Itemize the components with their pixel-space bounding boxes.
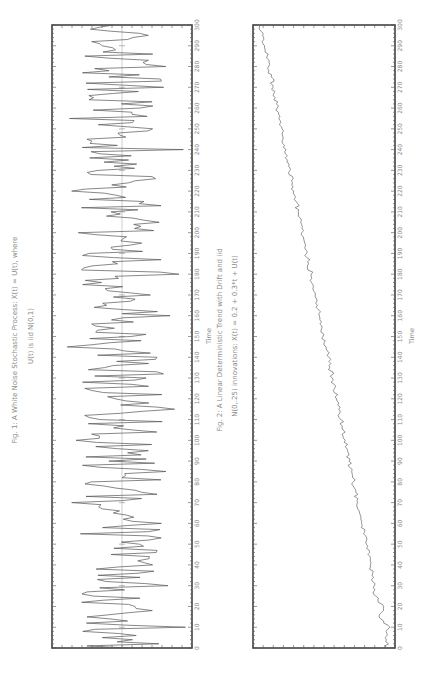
figure-1-caption-line1: Fig. 1: A White Noise Stochastic Process… xyxy=(11,237,19,444)
time-tick-label: 270 xyxy=(193,81,200,93)
time-tick-label: 60 xyxy=(396,519,403,527)
time-tick-label: 240 xyxy=(193,144,200,156)
time-tick-label: 250 xyxy=(396,123,403,135)
time-tick-label: 190 xyxy=(193,248,200,260)
figure-2-series-line xyxy=(259,25,390,648)
time-tick-label: 140 xyxy=(193,351,200,363)
time-tick-label: 180 xyxy=(396,268,403,280)
time-tick-label: 20 xyxy=(193,602,200,610)
figure-2: Fig. 2: A Linear Deterministic Trend wit… xyxy=(216,19,416,650)
time-tick-label: 150 xyxy=(193,331,200,343)
time-tick-label: 290 xyxy=(193,40,200,52)
figure-1-series-line xyxy=(67,25,185,648)
time-tick-label: 100 xyxy=(396,434,403,446)
time-tick-label: 0 xyxy=(396,646,403,650)
figure-1-caption-line2: U(t) is iid N(0,1) xyxy=(27,308,35,364)
time-tick-label: 110 xyxy=(193,414,200,426)
time-tick-label: 70 xyxy=(396,499,403,507)
time-tick-label: 180 xyxy=(193,268,200,280)
figure-1-xlabel: Time xyxy=(205,328,213,345)
time-tick-label: 290 xyxy=(396,40,403,52)
time-tick-label: 80 xyxy=(193,478,200,486)
time-tick-label: 220 xyxy=(396,185,403,197)
time-tick-label: 50 xyxy=(396,540,403,548)
time-tick-label: 150 xyxy=(396,331,403,343)
time-tick-label: 30 xyxy=(193,582,200,590)
time-tick-label: 30 xyxy=(396,582,403,590)
time-tick-label: 260 xyxy=(396,102,403,114)
time-tick-label: 120 xyxy=(396,393,403,405)
time-tick-label: 10 xyxy=(193,623,200,631)
figure-2-plot-frame xyxy=(253,25,395,648)
time-tick-label: 40 xyxy=(396,561,403,569)
time-tick-label: 190 xyxy=(396,248,403,260)
time-tick-label: 200 xyxy=(193,227,200,239)
time-tick-label: 170 xyxy=(193,289,200,301)
time-tick-label: 300 xyxy=(396,19,403,31)
figure-2-value-axis-ticks xyxy=(253,25,395,648)
time-tick-label: 250 xyxy=(193,123,200,135)
time-tick-label: 120 xyxy=(193,393,200,405)
time-tick-label: 0 xyxy=(193,646,200,650)
time-tick-label: 280 xyxy=(396,61,403,73)
figure-1-time-axis-labels: 0102030405060708090100110120130140150160… xyxy=(193,19,200,650)
figure-2-caption-line1: Fig. 2: A Linear Deterministic Trend wit… xyxy=(216,248,224,431)
time-tick-label: 90 xyxy=(396,457,403,465)
time-tick-label: 210 xyxy=(396,206,403,218)
time-tick-label: 80 xyxy=(396,478,403,486)
time-tick-label: 230 xyxy=(193,164,200,176)
time-tick-label: 280 xyxy=(193,61,200,73)
time-tick-label: 60 xyxy=(193,519,200,527)
time-tick-label: 160 xyxy=(193,310,200,322)
time-tick-label: 70 xyxy=(193,499,200,507)
figure-2-caption-line2: N(0,.25) innovations: X(t) = 0.2 + 0.3*t… xyxy=(231,255,239,417)
time-tick-label: 210 xyxy=(193,206,200,218)
time-tick-label: 50 xyxy=(193,540,200,548)
time-tick-label: 220 xyxy=(193,185,200,197)
time-tick-label: 300 xyxy=(193,19,200,31)
time-tick-label: 110 xyxy=(396,414,403,426)
time-tick-label: 140 xyxy=(396,351,403,363)
time-tick-label: 10 xyxy=(396,623,403,631)
time-tick-label: 40 xyxy=(193,561,200,569)
time-tick-label: 230 xyxy=(396,164,403,176)
time-tick-label: 160 xyxy=(396,310,403,322)
figure-2-time-axis-ticks xyxy=(253,25,395,648)
time-tick-label: 200 xyxy=(396,227,403,239)
time-tick-label: 20 xyxy=(396,602,403,610)
time-tick-label: 270 xyxy=(396,81,403,93)
time-tick-label: 130 xyxy=(396,372,403,384)
time-tick-label: 170 xyxy=(396,289,403,301)
time-tick-label: 90 xyxy=(193,457,200,465)
time-tick-label: 240 xyxy=(396,144,403,156)
figure-2-xlabel: Time xyxy=(408,328,416,345)
time-tick-label: 260 xyxy=(193,102,200,114)
figure-2-time-axis-labels: 0102030405060708090100110120130140150160… xyxy=(396,19,403,650)
figure-1: Fig. 1: A White Noise Stochastic Process… xyxy=(11,19,213,650)
time-tick-label: 100 xyxy=(193,434,200,446)
figure-page: Fig. 1: A White Noise Stochastic Process… xyxy=(0,0,428,686)
time-tick-label: 130 xyxy=(193,372,200,384)
